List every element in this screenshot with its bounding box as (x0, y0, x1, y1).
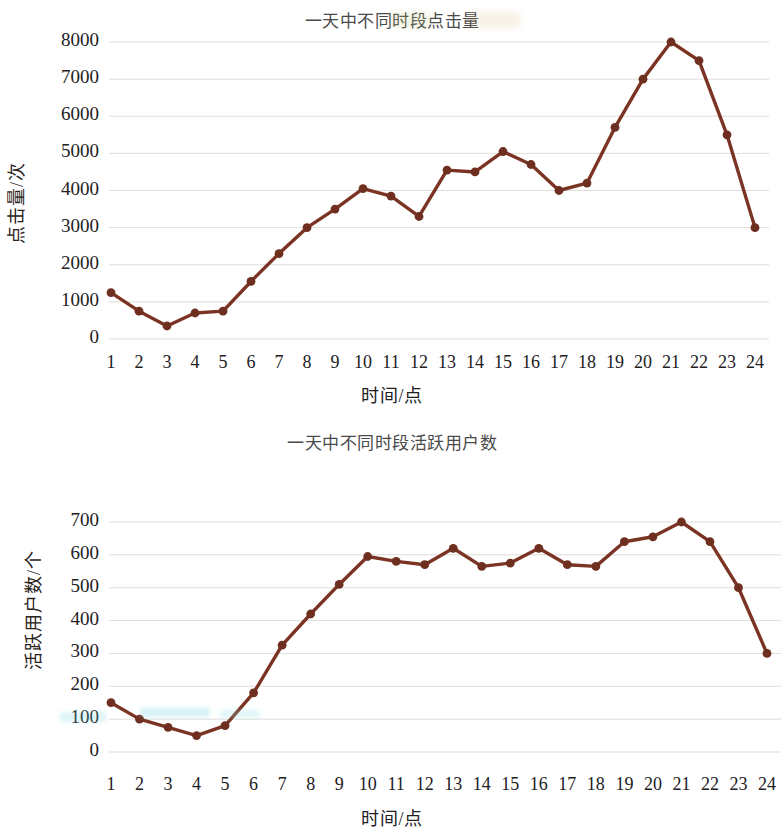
data-point (335, 580, 344, 589)
data-point (649, 532, 658, 541)
data-point (163, 322, 172, 331)
data-point (639, 75, 648, 84)
y-tick-label: 6000 (35, 103, 99, 125)
data-point (306, 610, 315, 619)
data-point (415, 212, 424, 221)
data-point (420, 560, 429, 569)
x-tick-label: 14 (466, 774, 498, 795)
x-tick-label: 15 (494, 774, 526, 795)
y-tick-label: 0 (35, 739, 99, 761)
y-tick-label: 1000 (35, 289, 99, 311)
x-axis-label: 时间/点 (0, 381, 784, 407)
plot-area (0, 412, 784, 831)
data-point (192, 731, 201, 740)
data-point (763, 649, 772, 658)
chart-active-users: 一天中不同时段活跃用户数 活跃用户数/个 0100200300400500600… (0, 412, 784, 831)
data-point (303, 223, 312, 232)
data-point (583, 179, 592, 188)
data-point (695, 56, 704, 65)
data-point (363, 552, 372, 561)
x-tick-label: 8 (295, 774, 327, 795)
x-tick-label: 9 (323, 774, 355, 795)
data-point (135, 307, 144, 316)
data-point (751, 223, 760, 232)
data-point (275, 249, 284, 258)
data-point (620, 537, 629, 546)
data-point (555, 186, 564, 195)
data-point (527, 160, 536, 169)
y-tick-label: 5000 (35, 140, 99, 162)
x-tick-label: 21 (665, 774, 697, 795)
data-point (247, 277, 256, 286)
x-tick-label: 18 (580, 774, 612, 795)
x-tick-label: 17 (551, 774, 583, 795)
data-point (563, 560, 572, 569)
x-axis-label: 时间/点 (0, 804, 784, 830)
x-tick-label: 13 (437, 774, 469, 795)
data-point (443, 166, 452, 175)
data-point (499, 147, 508, 156)
data-point (387, 192, 396, 201)
data-point (677, 518, 686, 527)
x-tick-label: 20 (637, 774, 669, 795)
y-tick-label: 300 (35, 640, 99, 662)
y-tick-label: 600 (35, 542, 99, 564)
x-tick-label: 22 (694, 774, 726, 795)
plot-area (0, 0, 784, 412)
x-tick-label: 24 (739, 352, 771, 373)
data-line (111, 42, 755, 326)
data-point (107, 288, 116, 297)
data-point (591, 562, 600, 571)
data-point (471, 168, 480, 177)
x-tick-label: 11 (380, 774, 412, 795)
data-point (221, 721, 230, 730)
x-tick-label: 5 (209, 774, 241, 795)
x-tick-label: 6 (238, 774, 270, 795)
data-point (219, 307, 228, 316)
data-point (611, 123, 620, 132)
x-tick-label: 2 (124, 774, 156, 795)
x-tick-label: 19 (608, 774, 640, 795)
data-point (506, 559, 515, 568)
data-point (734, 583, 743, 592)
x-tick-label: 7 (266, 774, 298, 795)
y-tick-label: 7000 (35, 66, 99, 88)
y-tick-label: 400 (35, 608, 99, 630)
data-point (278, 641, 287, 650)
data-point (191, 309, 200, 318)
y-tick-label: 0 (35, 326, 99, 348)
y-tick-label: 500 (35, 575, 99, 597)
data-point (392, 557, 401, 566)
x-tick-label: 1 (95, 774, 127, 795)
y-tick-label: 4000 (35, 178, 99, 200)
data-point (534, 544, 543, 553)
x-tick-label: 16 (523, 774, 555, 795)
data-point (249, 688, 258, 697)
y-tick-label: 2000 (35, 252, 99, 274)
data-point (723, 130, 732, 139)
data-point (706, 537, 715, 546)
x-tick-label: 12 (409, 774, 441, 795)
x-tick-label: 10 (352, 774, 384, 795)
data-point (331, 205, 340, 214)
x-tick-label: 4 (181, 774, 213, 795)
data-point (449, 544, 458, 553)
y-tick-label: 700 (35, 509, 99, 531)
y-tick-label: 200 (35, 673, 99, 695)
data-point (164, 723, 173, 732)
data-point (477, 562, 486, 571)
figure-page: 一天中不同时段点击量 点击量/次 01000200030004000500060… (0, 0, 784, 831)
data-line (111, 522, 767, 736)
data-point (135, 715, 144, 724)
data-point (667, 38, 676, 47)
chart-clicks: 一天中不同时段点击量 点击量/次 01000200030004000500060… (0, 0, 784, 412)
y-tick-label: 100 (35, 706, 99, 728)
x-tick-label: 24 (751, 774, 783, 795)
x-tick-label: 23 (722, 774, 754, 795)
data-point (107, 698, 116, 707)
y-tick-label: 8000 (35, 29, 99, 51)
data-point (359, 184, 368, 193)
x-tick-label: 3 (152, 774, 184, 795)
y-tick-label: 3000 (35, 215, 99, 237)
